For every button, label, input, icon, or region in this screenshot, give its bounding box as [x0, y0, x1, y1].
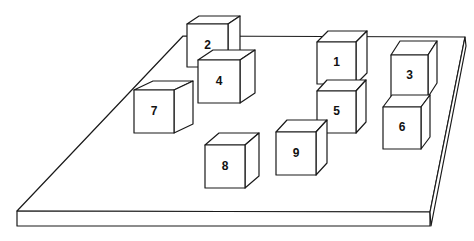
cube-8: 8 — [205, 133, 259, 188]
cube-number-label: 5 — [333, 104, 340, 118]
cube-7: 7 — [134, 81, 193, 133]
cube-side-face — [174, 81, 193, 133]
cube-number-label: 1 — [333, 55, 340, 69]
cube-number-label: 3 — [406, 68, 413, 82]
cube-side-face — [240, 50, 255, 103]
cube-1: 1 — [317, 31, 367, 84]
cube-number-label: 9 — [293, 146, 300, 160]
cube-3: 3 — [391, 41, 437, 97]
cube-number-label: 7 — [151, 104, 158, 118]
board-front-edge — [17, 211, 430, 226]
cube-number-label: 6 — [399, 120, 406, 134]
diagram-canvas: 213475698 — [0, 0, 474, 241]
cube-number-label: 4 — [216, 74, 223, 88]
board-with-cubes-drawing: 213475698 — [0, 0, 474, 241]
cube-6: 6 — [383, 95, 430, 149]
cube-number-label: 8 — [222, 159, 229, 173]
cube-4: 4 — [198, 50, 255, 103]
cube-9: 9 — [276, 120, 327, 175]
cube-number-label: 2 — [204, 38, 211, 52]
